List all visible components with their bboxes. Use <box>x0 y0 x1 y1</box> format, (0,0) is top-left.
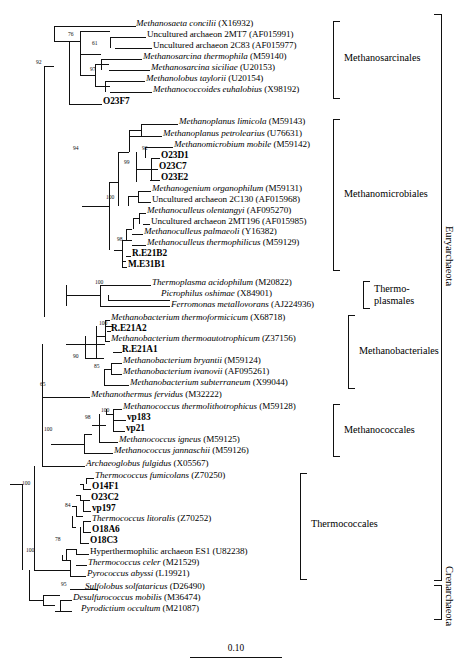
taxon-label: Sulfolobus solfataricus (D26490) <box>85 582 205 592</box>
branch-horizontal <box>110 92 152 93</box>
branch-horizontal <box>143 224 150 225</box>
branch-horizontal <box>105 341 110 342</box>
taxon-accession: (M36474) <box>162 592 201 602</box>
taxon-name: Thermococcus fumicolans <box>95 470 189 480</box>
bootstrap-value: 100 <box>99 320 107 326</box>
bootstrap-value: 98 <box>85 414 91 420</box>
taxon-name: Methanobacterium thermoautotrophicum <box>111 333 260 343</box>
branch-horizontal <box>111 374 122 375</box>
taxon-name: Methanosarcina siciliae <box>151 62 238 72</box>
taxon-label: Methanobacterium ivanovii (AF095261) <box>123 367 269 377</box>
branch-vertical <box>34 466 35 570</box>
taxon-label: O23C2 <box>91 493 119 503</box>
branch-horizontal <box>136 169 151 170</box>
taxon-accession: (U76631) <box>265 128 302 138</box>
taxon-label: Methanoculleus palmaeoli (Y16382) <box>144 227 277 237</box>
taxon-accession: (AF015968) <box>253 194 300 204</box>
branch-horizontal <box>128 196 138 197</box>
taxon-name: Methanobacterium ivanovii <box>123 366 223 376</box>
branch-horizontal <box>115 48 152 49</box>
branch-horizontal <box>86 478 94 479</box>
taxon-label: Methanoplanus petrolearius (U76631) <box>163 129 302 139</box>
branch-horizontal <box>43 605 55 606</box>
branch-horizontal <box>66 295 100 296</box>
taxon-label: vp21 <box>126 424 145 434</box>
taxon-name: Methanobacterium subterraneum <box>130 377 251 387</box>
taxon-name: Methanoplanus limicola <box>179 116 267 126</box>
taxon-accession: (M59125) <box>201 434 240 444</box>
taxon-accession: (AF095261) <box>223 366 270 376</box>
root-branch <box>10 484 22 485</box>
branch-horizontal <box>95 86 110 87</box>
taxon-label: Hyperthermophilic archaeon ES1 (U82238) <box>90 547 247 557</box>
bootstrap-value: 100 <box>22 480 30 486</box>
taxon-name: Picrophilus oshimae <box>161 288 235 298</box>
taxon-label: Thermococcus celer (M21529) <box>88 558 199 568</box>
group-bracket <box>333 404 340 457</box>
branch-horizontal <box>66 549 76 550</box>
taxon-accession: (U20154) <box>226 73 263 83</box>
branch-horizontal <box>84 453 113 454</box>
branch-horizontal <box>145 147 173 148</box>
group-label: Thermococcales <box>311 518 378 530</box>
branch-vertical <box>22 484 23 570</box>
group-label: Methanococcales <box>344 424 415 436</box>
taxon-name: O14F1 <box>92 481 119 491</box>
taxon-name: Methanoculleus olentangyi <box>147 205 245 215</box>
group-bracket <box>300 473 307 580</box>
taxon-accession: (X99044) <box>251 377 288 387</box>
taxon-name: O23C7 <box>159 161 187 171</box>
taxon-label: Methanobacterium thermoautotrophicum (Z3… <box>111 334 296 344</box>
branch-horizontal <box>69 104 102 105</box>
taxon-name: Methanogenium organophilum <box>152 183 263 193</box>
taxon-accession: (M59143) <box>267 116 306 126</box>
taxon-accession: (M59126) <box>210 445 249 455</box>
branch-horizontal <box>122 240 132 241</box>
bootstrap-value: 61 <box>92 40 98 46</box>
branch-horizontal <box>42 397 90 398</box>
phylum-bracket <box>434 14 442 581</box>
taxon-name: vp197 <box>92 503 116 513</box>
taxon-accession: (X68718) <box>248 312 285 322</box>
bootstrap-value: 65 <box>40 381 46 387</box>
taxon-label: Methanococcus jannaschii (M59126) <box>114 446 249 456</box>
branch-vertical <box>76 506 77 516</box>
branch-vertical <box>126 229 127 240</box>
branch-vertical <box>29 570 30 600</box>
taxon-name: R.E21B2 <box>132 248 167 258</box>
bootstrap-value: 90 <box>73 353 79 359</box>
branch-horizontal <box>80 54 101 55</box>
taxon-name: Archaeoglobus fulgidus <box>86 458 171 468</box>
taxon-label: Methanosarcina thermophila (M59140) <box>143 52 286 62</box>
branch-horizontal <box>80 500 90 501</box>
bootstrap-value: 85 <box>94 363 100 369</box>
branch-horizontal <box>54 26 136 27</box>
branch-vertical <box>42 397 43 466</box>
group-bracket <box>348 315 355 389</box>
taxon-name: R.E21A1 <box>122 344 158 354</box>
branch-horizontal <box>141 124 178 125</box>
taxon-name: Uncultured archaeon 2MT196 <box>151 216 260 226</box>
branch-horizontal <box>62 560 70 561</box>
taxon-name: Ferromonas metallovorans <box>171 299 269 309</box>
group-label: Methanomicrobiales <box>344 188 428 200</box>
taxon-name: Methanococcus thermolithotrophicus <box>123 401 257 411</box>
phylogenetic-tree-figure: Methanosaeta concilii (X16932)Uncultured… <box>0 0 470 672</box>
bootstrap-value: 78 <box>55 536 61 542</box>
branch-horizontal <box>122 267 127 268</box>
taxon-label: O18A6 <box>92 525 120 535</box>
branch-vertical <box>83 521 84 532</box>
taxon-name: Methanococcus jannaschii <box>114 445 210 455</box>
branch-vertical <box>100 285 101 306</box>
branch-horizontal <box>76 554 89 555</box>
bootstrap-value: 100 <box>106 194 114 200</box>
branch-horizontal <box>51 444 84 445</box>
branch-horizontal <box>60 600 72 601</box>
branch-horizontal <box>109 182 118 183</box>
branch-horizontal <box>111 363 122 364</box>
branch-vertical <box>101 59 102 70</box>
taxon-name: Thermococcus celer <box>88 557 161 567</box>
taxon-accession: (AF015985) <box>260 216 307 226</box>
branch-vertical <box>72 516 73 527</box>
taxon-label: Pyrodictium occultum (M21087) <box>81 604 199 614</box>
